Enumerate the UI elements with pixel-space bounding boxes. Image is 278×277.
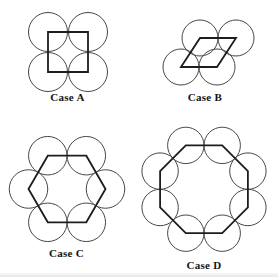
- figure-page: Case A Case B Case C Case D: [0, 0, 278, 277]
- case-d-figure: [142, 127, 266, 251]
- case-a-square-outline: [48, 32, 88, 72]
- case-b-label: Case B: [188, 92, 223, 103]
- case-a-figure: [29, 13, 108, 92]
- case-c-hexagon-outline: [29, 156, 106, 223]
- case-c-label: Case C: [49, 248, 84, 259]
- geometry-diagram: [0, 0, 278, 277]
- case-d-octagon-outline: [160, 145, 248, 233]
- case-c-figure: [9, 136, 125, 241]
- case-b-figure: [163, 20, 254, 85]
- case-a-label: Case A: [50, 92, 85, 103]
- scan-edge-artifact: [0, 273, 278, 277]
- case-d-label: Case D: [186, 260, 221, 271]
